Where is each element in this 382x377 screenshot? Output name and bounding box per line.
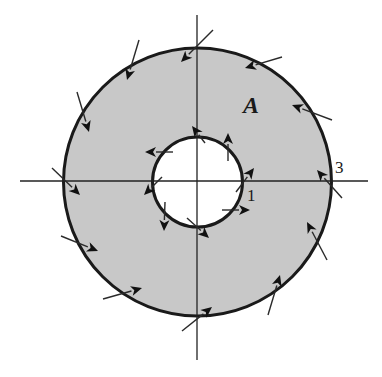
inner-radius-label: 1	[247, 186, 256, 206]
annulus-diagram	[0, 0, 382, 377]
region-label-a: A	[243, 92, 259, 119]
outer-radius-label: 3	[335, 158, 344, 178]
